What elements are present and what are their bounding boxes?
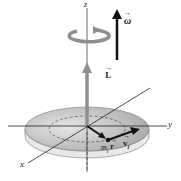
L-label: L	[105, 71, 111, 80]
angular-velocity-arrow	[112, 9, 122, 60]
z-axis-label: z	[84, 1, 87, 9]
x-axis-label: x	[20, 160, 24, 169]
rotation-arrow-icon	[69, 26, 109, 42]
omega-label: ω	[124, 16, 131, 26]
velocity-label: vi	[123, 139, 129, 150]
diagram-canvas	[0, 0, 181, 181]
y-axis-label: y	[168, 120, 172, 129]
r-label: r	[110, 143, 114, 151]
mass-label: mi	[101, 144, 108, 154]
